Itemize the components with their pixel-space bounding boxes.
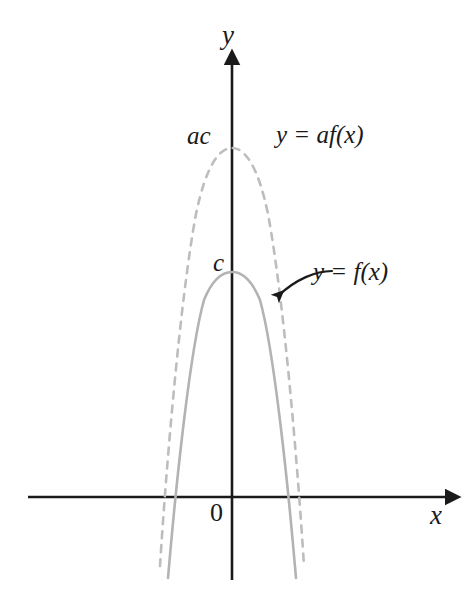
origin-label: 0 bbox=[210, 500, 223, 526]
c-intercept-label: c bbox=[213, 250, 224, 275]
curve-label-scaled: y = af(x) bbox=[276, 122, 364, 147]
curve-label-base: y = f(x) bbox=[313, 259, 388, 284]
ac-intercept-label: ac bbox=[187, 123, 211, 148]
x-axis-label: x bbox=[430, 502, 442, 529]
figure-canvas: y x 0 ac c y = af(x) y = f(x) bbox=[0, 0, 476, 606]
graph-svg bbox=[0, 0, 476, 606]
y-axis-label: y bbox=[222, 22, 234, 49]
